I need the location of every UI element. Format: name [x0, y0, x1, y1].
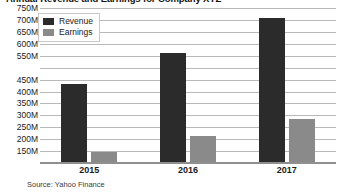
- x-axis-category-labels: 201520162017: [40, 165, 336, 179]
- bar-chart-figure: Annual Revenue and Earnings for Company …: [0, 0, 342, 193]
- y-axis-labels: 750M700M650M600M550M450M400M350M300M250M…: [0, 8, 38, 163]
- legend-swatch-icon: [43, 29, 54, 36]
- y-axis-tick-label: 200M: [2, 135, 38, 144]
- bar-revenue-2015: [61, 84, 87, 163]
- x-axis-label-2015: 2015: [40, 165, 139, 175]
- y-axis-tick-label: 600M: [2, 40, 38, 49]
- legend-item-revenue: Revenue: [43, 16, 93, 27]
- bar-revenue-2017: [259, 18, 285, 164]
- gridline: [40, 8, 336, 9]
- y-axis-tick-label: 700M: [2, 16, 38, 25]
- y-axis-tick-label: 450M: [2, 76, 38, 85]
- bar-earnings-2016: [190, 136, 216, 163]
- gridline: [40, 56, 336, 57]
- y-axis-tick-label: 400M: [2, 88, 38, 97]
- gridline: [40, 80, 336, 81]
- y-axis-tick-label: 550M: [2, 52, 38, 61]
- bar-revenue-2016: [160, 53, 186, 163]
- x-axis-label-2017: 2017: [237, 165, 336, 175]
- y-axis-tick-label: 350M: [2, 99, 38, 108]
- y-axis-tick-label: 300M: [2, 111, 38, 120]
- chart-title: Annual Revenue and Earnings for Company …: [6, 0, 336, 4]
- legend-swatch-icon: [43, 18, 54, 25]
- source-note: Source: Yahoo Finance: [27, 180, 105, 189]
- y-axis-tick-label: 650M: [2, 28, 38, 37]
- x-axis-label-2016: 2016: [139, 165, 238, 175]
- gridline: [40, 44, 336, 45]
- legend-label: Earnings: [59, 28, 93, 37]
- bar-earnings-2017: [289, 119, 315, 163]
- gridline: [40, 68, 336, 69]
- legend-item-earnings: Earnings: [43, 27, 93, 38]
- y-axis-tick-label: 750M: [2, 4, 38, 13]
- x-axis-line: [40, 162, 336, 164]
- legend-label: Revenue: [59, 17, 93, 26]
- chart-legend: RevenueEarnings: [38, 13, 100, 42]
- y-axis-tick-label: 250M: [2, 123, 38, 132]
- y-axis-tick-label: 150M: [2, 147, 38, 156]
